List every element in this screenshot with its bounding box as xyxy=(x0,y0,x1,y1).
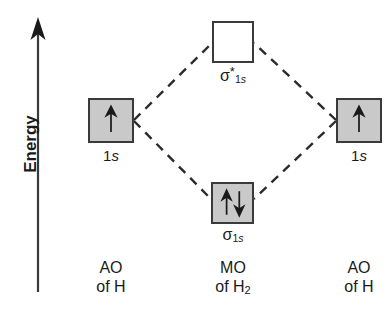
orbital-label-ao-right-italic: s xyxy=(359,147,367,164)
caption-right-line2-prefix: of H xyxy=(344,278,373,295)
caption-center-line1: MO xyxy=(190,258,276,277)
orbital-box-mo-bonding xyxy=(211,182,254,224)
sigma-glyph: σ xyxy=(220,67,230,84)
sigma-star-sub-italic: s xyxy=(241,73,246,85)
caption-center-line2: of H2 xyxy=(190,277,276,300)
energy-axis-label: Energy xyxy=(21,94,41,194)
mo-energy-diagram: Energy xyxy=(0,0,387,313)
orbital-label-mo-antibonding: σ*1s xyxy=(200,64,266,85)
sigma-star-subscript: 1s xyxy=(235,73,246,85)
caption-left-column: AO of H xyxy=(68,258,154,300)
caption-center-line2-sub: 2 xyxy=(245,284,251,296)
caption-center-line2-prefix: of H xyxy=(215,278,244,295)
orbital-label-ao-right: 1s xyxy=(326,147,387,164)
sigma-sub-italic: s xyxy=(238,232,243,244)
sigma-subscript: 1s xyxy=(232,232,243,244)
orbital-box-ao-left xyxy=(88,98,134,143)
orbital-label-ao-left: 1s xyxy=(78,147,144,164)
caption-left-line2-prefix: of H xyxy=(96,278,125,295)
caption-right-line1: AO xyxy=(316,258,387,277)
orbital-label-ao-left-italic: s xyxy=(111,147,119,164)
electron-arrows-ao-left xyxy=(90,100,132,141)
electron-arrows-ao-right xyxy=(338,100,380,141)
orbital-box-mo-antibonding xyxy=(212,21,254,63)
caption-right-line2: of H xyxy=(316,277,387,300)
orbital-label-mo-bonding: σ1s xyxy=(200,226,266,244)
caption-center-column: MO of H2 xyxy=(190,258,276,300)
caption-left-line2: of H xyxy=(68,277,154,300)
orbital-box-ao-right xyxy=(336,98,382,143)
electron-arrows-mo-bonding xyxy=(213,184,252,222)
caption-right-column: AO of H xyxy=(316,258,387,300)
sigma-glyph: σ xyxy=(223,226,233,243)
caption-left-line1: AO xyxy=(68,258,154,277)
